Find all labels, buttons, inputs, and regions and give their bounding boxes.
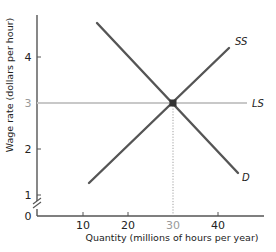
y-tick-label-4: 4 bbox=[25, 51, 32, 64]
x-tick-label-10: 10 bbox=[76, 219, 90, 232]
y-axis-title: Wage rate (dollars per hour) bbox=[4, 18, 15, 153]
origin-label: 0 bbox=[25, 210, 32, 223]
y-tick-label-1: 1 bbox=[25, 189, 32, 202]
x-tick-label-40: 40 bbox=[211, 219, 225, 232]
equilibrium-point bbox=[170, 100, 177, 107]
x-tick-label-30: 30 bbox=[166, 219, 180, 232]
y-tick-label-3: 3 bbox=[25, 97, 32, 110]
x-tick-label-20: 20 bbox=[121, 219, 135, 232]
y-tick-label-2: 2 bbox=[25, 143, 32, 156]
ss-curve bbox=[89, 48, 229, 183]
d-curve bbox=[97, 23, 238, 173]
ss-label: SS bbox=[235, 36, 248, 47]
x-axis-title: Quantity (millions of hours per year) bbox=[86, 232, 259, 243]
d-label: D bbox=[242, 172, 250, 183]
labor-market-chart: 4 3 2 1 0 10 20 30 40 Quantity (millions… bbox=[0, 0, 276, 252]
ls-label: LS bbox=[252, 98, 265, 109]
